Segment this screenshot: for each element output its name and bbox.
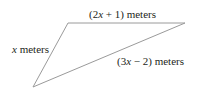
label-top-side: (2x + 1) meters	[89, 8, 156, 21]
label-diagonal-side: (3x − 2) meters	[117, 55, 184, 68]
label-left-side: x meters	[11, 43, 49, 55]
triangle-diagram: (2x + 1) meters x meters (3x − 2) meters	[0, 0, 199, 96]
